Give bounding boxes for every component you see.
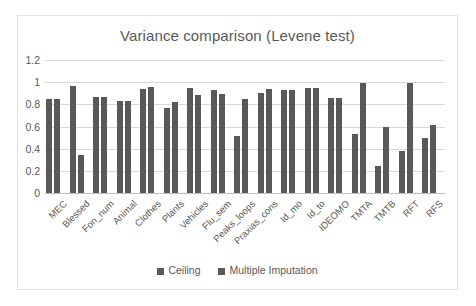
y-axis-tick-label: 1.2 [25,54,40,66]
plot-area: 00.20.40.60.811.2 MECBlessedFon_numAnima… [45,60,445,193]
bar-group[interactable] [304,60,328,193]
x-axis-tick-label: TMTB [372,198,398,224]
bar[interactable] [195,95,201,193]
y-axis-tick-label: 0.8 [25,98,40,110]
legend-item[interactable]: Ceiling [157,264,200,277]
legend-label: Ceiling [168,264,200,276]
x-axis-tick-label: Clothes [132,198,163,229]
bar[interactable] [266,89,272,193]
bar[interactable] [117,101,123,193]
gridline [45,193,445,194]
bar[interactable] [70,86,76,194]
legend-swatch-icon [218,268,225,275]
bar[interactable] [407,83,413,193]
bar[interactable] [352,134,358,193]
bar[interactable] [289,90,295,193]
bar[interactable] [281,90,287,193]
bar[interactable] [148,87,154,193]
bar-group[interactable] [280,60,304,193]
x-axis-tick-label: RFS [424,198,445,219]
bar[interactable] [234,136,240,193]
bar[interactable] [258,93,264,193]
bar[interactable] [101,97,107,193]
legend-swatch-icon [157,268,164,275]
bar-group[interactable] [233,60,257,193]
bar-group[interactable] [327,60,351,193]
bar[interactable] [328,98,334,193]
bar-group[interactable] [116,60,140,193]
bar[interactable] [54,99,60,193]
bar-group[interactable] [45,60,69,193]
bar-group[interactable] [139,60,163,193]
y-axis-tick-label: 0.6 [25,121,40,133]
bar-group[interactable] [210,60,234,193]
bar[interactable] [78,155,84,193]
bar-group[interactable] [351,60,375,193]
chart-title: Variance comparison (Levene test) [18,27,457,44]
bar-group[interactable] [257,60,281,193]
bar[interactable] [399,151,405,193]
y-axis-tick-label: 0 [34,187,40,199]
bar[interactable] [187,88,193,193]
y-axis-tick-label: 0.2 [25,165,40,177]
bar-group[interactable] [92,60,116,193]
legend-label: Multiple Imputation [229,264,317,276]
bar[interactable] [422,138,428,193]
bar[interactable] [172,102,178,193]
bar-group[interactable] [374,60,398,193]
bar[interactable] [164,108,170,193]
x-axis-tick-label: RFT [401,198,422,219]
bar[interactable] [125,101,131,193]
chart-container: Variance comparison (Levene test) 00.20.… [17,15,458,290]
bar[interactable] [383,127,389,194]
bar[interactable] [242,99,248,193]
bar[interactable] [360,83,366,193]
bar[interactable] [336,98,342,193]
bar[interactable] [219,94,225,193]
bar[interactable] [430,125,436,193]
chart-legend: CeilingMultiple Imputation [18,264,457,277]
bar[interactable] [211,90,217,193]
bar[interactable] [305,88,311,193]
bar-group[interactable] [163,60,187,193]
bar-group[interactable] [398,60,422,193]
bar[interactable] [46,99,52,193]
y-axis-tick-label: 1 [34,76,40,88]
bars-layer [45,60,445,193]
x-axis-tick-label: TMTA [349,198,375,224]
bar[interactable] [375,166,381,193]
y-axis-tick-label: 0.4 [25,143,40,155]
bar-group[interactable] [186,60,210,193]
legend-item[interactable]: Multiple Imputation [218,264,317,277]
bar[interactable] [313,88,319,193]
bar[interactable] [93,97,99,193]
x-axis-tick-label: Id_mo [277,198,303,224]
bar-group[interactable] [69,60,93,193]
bar-group[interactable] [421,60,445,193]
bar[interactable] [140,89,146,193]
